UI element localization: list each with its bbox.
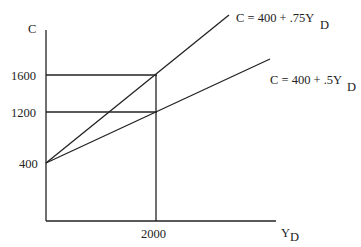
- x-tick-2000: 2000: [141, 227, 166, 241]
- line-mpc-075-label: C = 400 + .75Y: [236, 11, 314, 25]
- y-tick-1200: 1200: [11, 106, 36, 120]
- line-mpc-075: [46, 15, 229, 163]
- x-axis-label: Y: [281, 226, 290, 240]
- y-tick-400: 400: [19, 157, 38, 171]
- line-mpc-075-label-subscript: D: [320, 18, 329, 32]
- consumption-function-chart: C Y D 1600 1200 400 2000 C = 400 + .75Y …: [0, 0, 361, 247]
- x-axis-label-subscript: D: [290, 230, 299, 244]
- line-mpc-05-label: C = 400 + .5Y: [270, 73, 342, 87]
- y-tick-1600: 1600: [11, 69, 36, 83]
- y-axis-label: C: [28, 22, 36, 36]
- line-mpc-05-label-subscript: D: [347, 80, 356, 94]
